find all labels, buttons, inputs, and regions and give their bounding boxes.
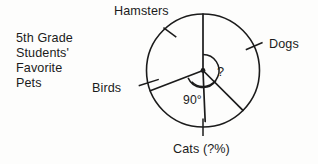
right-angle-label: 90° bbox=[183, 93, 202, 107]
radius-lower-left-birds-cats bbox=[150, 71, 203, 91]
dogs-leader-tick bbox=[246, 43, 263, 50]
title-line-4: Pets bbox=[16, 76, 42, 90]
unknown-angle-label: ? bbox=[217, 64, 224, 79]
label-birds: Birds bbox=[92, 81, 121, 95]
label-hamsters: Hamsters bbox=[114, 4, 169, 18]
label-cats: Cats (?%) bbox=[173, 142, 230, 156]
pie-center-hub bbox=[201, 68, 206, 73]
title-line-1: 5th Grade bbox=[16, 31, 73, 45]
label-dogs: Dogs bbox=[269, 37, 299, 51]
hamsters-leader-tick bbox=[163, 28, 176, 38]
pie-chart-figure: 5th Grade Students' Favorite Pets ? 90° bbox=[0, 0, 318, 164]
title-line-3: Favorite bbox=[16, 61, 62, 75]
title-line-2: Students' bbox=[16, 46, 69, 60]
